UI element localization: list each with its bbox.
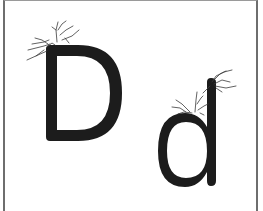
hand-doodle-icon (172, 92, 208, 115)
letters-artwork (0, 0, 263, 211)
uppercase-d-glyph (46, 45, 122, 141)
lowercase-d-glyph (158, 78, 216, 187)
